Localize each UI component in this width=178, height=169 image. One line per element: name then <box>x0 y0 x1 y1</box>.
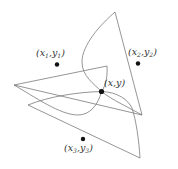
site-point-1 <box>55 62 59 66</box>
site-label-3: (x3,y3) <box>64 142 93 154</box>
site-label-1: (x1,y1) <box>36 47 65 59</box>
site-point-2 <box>136 61 140 65</box>
diagram-canvas: (x,y) (x1,y1) (x2,y2) (x3,y3) <box>0 0 178 169</box>
site-label-2: (x2,y2) <box>128 46 157 58</box>
center-label: (x,y) <box>104 77 125 88</box>
center-point <box>99 89 104 94</box>
region-1-outline <box>14 66 107 115</box>
edge-left-to-right <box>14 85 142 115</box>
region-2-outline <box>82 12 142 115</box>
site-point-3 <box>81 137 85 141</box>
